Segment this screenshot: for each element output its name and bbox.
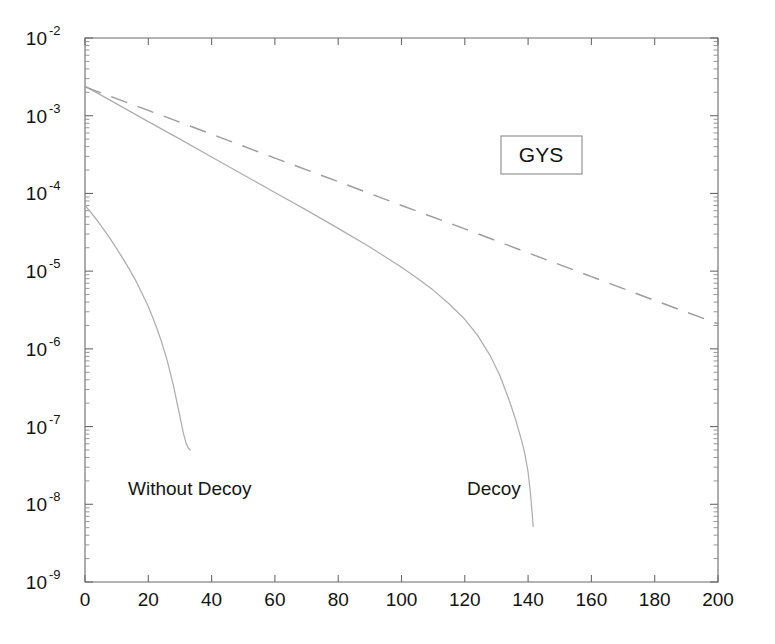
x-tick-label-160: 160 [576, 589, 608, 610]
x-axis-ticks [85, 38, 718, 582]
y-tick-exponent--5: -5 [49, 256, 61, 271]
x-tick-label-80: 80 [328, 589, 349, 610]
y-axis-ticks [85, 38, 718, 582]
y-tick-label-10-3: 10 [26, 106, 47, 127]
y-tick-label-10-6: 10 [26, 339, 47, 360]
series-decoy [85, 86, 533, 526]
series-gys [85, 87, 718, 324]
y-tick-exponent--8: -8 [49, 489, 61, 504]
y-tick-label-10-9: 10 [26, 572, 47, 593]
y-tick-label-10-2: 10 [26, 28, 47, 49]
data-series-layer [85, 86, 718, 526]
y-tick-exponent--2: -2 [49, 23, 61, 38]
x-tick-label-20: 20 [138, 589, 159, 610]
chart-figure: 020406080100120140160180200 10-910-810-7… [0, 0, 775, 644]
y-tick-exponent--7: -7 [49, 412, 61, 427]
annotation-decoy: Decoy [467, 478, 521, 499]
legend-label-gys: GYS [519, 143, 563, 166]
y-tick-label-10-7: 10 [26, 417, 47, 438]
y-axis-tick-labels: 10-910-810-710-610-510-410-310-2 [26, 23, 61, 593]
annotation-layer: Without Decoy Decoy [128, 478, 521, 499]
legend-box-group: GYS [501, 136, 582, 174]
series-without-decoy [85, 205, 190, 450]
axis-frame-path [85, 38, 718, 582]
x-tick-label-180: 180 [639, 589, 671, 610]
x-tick-label-140: 140 [512, 589, 544, 610]
x-tick-label-40: 40 [201, 589, 222, 610]
x-tick-label-200: 200 [702, 589, 734, 610]
chart-svg: 020406080100120140160180200 10-910-810-7… [0, 0, 775, 644]
y-tick-label-10-8: 10 [26, 494, 47, 515]
y-tick-exponent--9: -9 [49, 567, 61, 582]
x-tick-label-120: 120 [449, 589, 481, 610]
annotation-without-decoy: Without Decoy [128, 478, 252, 499]
x-tick-label-100: 100 [386, 589, 418, 610]
y-tick-label-10-4: 10 [26, 183, 47, 204]
x-axis-tick-labels: 020406080100120140160180200 [80, 589, 734, 610]
y-tick-label-10-5: 10 [26, 261, 47, 282]
y-tick-exponent--6: -6 [49, 334, 61, 349]
x-tick-label-60: 60 [264, 589, 285, 610]
axes-frame [85, 38, 718, 582]
x-tick-label-0: 0 [80, 589, 91, 610]
y-tick-exponent--3: -3 [49, 101, 61, 116]
y-tick-exponent--4: -4 [49, 178, 61, 193]
